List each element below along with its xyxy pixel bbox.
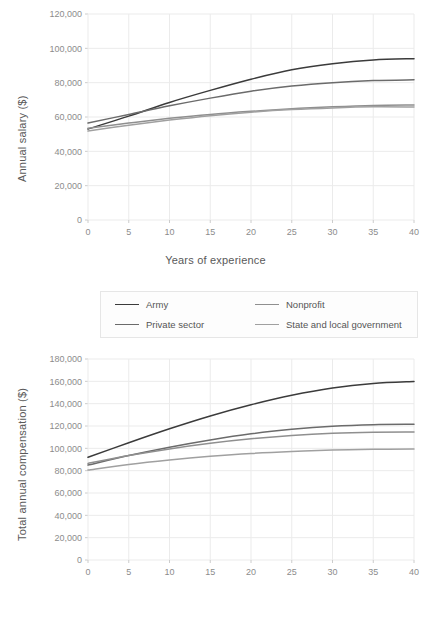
y-axis-title-total-annual-compensation: Total annual compensation ($)	[16, 388, 28, 541]
x-tick-label: 40	[409, 567, 419, 577]
y-tick-label: 80,000	[54, 78, 82, 88]
y-tick-label: 60,000	[54, 112, 82, 122]
y-tick-label: 160,000	[49, 377, 82, 387]
y-tick-label: 0	[77, 555, 82, 565]
x-tick-label: 15	[205, 567, 215, 577]
figure: 020,00040,00060,00080,000100,000120,0000…	[0, 0, 431, 621]
y-tick-label: 100,000	[49, 44, 82, 54]
legend-swatch-state-and-local-government	[255, 324, 279, 325]
x-axis-title-annual-salary: Years of experience	[0, 254, 431, 266]
chart-panel-annual-salary: 020,00040,00060,00080,000100,000120,0000…	[0, 0, 431, 285]
legend-swatch-army	[115, 304, 139, 305]
x-tick-label: 35	[368, 227, 378, 237]
y-tick-label: 20,000	[54, 181, 82, 191]
total-annual-compensation-plot: 020,00040,00060,00080,000100,000120,0001…	[0, 345, 431, 590]
chart-panel-total-annual-compensation: 020,00040,00060,00080,000100,000120,0001…	[0, 345, 431, 621]
y-tick-label: 120,000	[49, 421, 82, 431]
x-tick-label: 20	[246, 227, 256, 237]
x-tick-label: 20	[246, 567, 256, 577]
legend-item-army[interactable]: Army	[115, 299, 255, 310]
y-axis-title-annual-salary: Annual salary ($)	[16, 95, 28, 182]
annual-salary-plot: 020,00040,00060,00080,000100,000120,0000…	[0, 0, 431, 250]
legend-label-nonprofit: Nonprofit	[286, 299, 325, 310]
x-tick-label: 10	[164, 227, 174, 237]
chart-legend: Army Nonprofit Private sector State and …	[100, 291, 418, 338]
x-tick-label: 30	[327, 227, 337, 237]
legend-item-nonprofit[interactable]: Nonprofit	[255, 299, 431, 310]
x-tick-label: 35	[368, 567, 378, 577]
y-tick-label: 20,000	[54, 533, 82, 543]
y-tick-label: 40,000	[54, 511, 82, 521]
y-tick-label: 120,000	[49, 9, 82, 19]
x-tick-label: 30	[327, 567, 337, 577]
x-tick-label: 5	[126, 227, 131, 237]
y-tick-label: 140,000	[49, 399, 82, 409]
x-tick-label: 0	[85, 567, 90, 577]
y-tick-label: 80,000	[54, 466, 82, 476]
y-tick-label: 0	[77, 215, 82, 225]
x-tick-label: 10	[164, 567, 174, 577]
x-tick-label: 40	[409, 227, 419, 237]
x-tick-label: 5	[126, 567, 131, 577]
y-tick-label: 180,000	[49, 354, 82, 364]
legend-swatch-nonprofit	[255, 304, 279, 305]
legend-label-state-and-local-government: State and local government	[286, 319, 402, 330]
legend-swatch-private-sector	[115, 324, 139, 325]
x-tick-label: 0	[85, 227, 90, 237]
legend-label-army: Army	[146, 299, 168, 310]
legend-item-private-sector[interactable]: Private sector	[115, 319, 255, 330]
x-tick-label: 25	[287, 567, 297, 577]
legend-label-private-sector: Private sector	[146, 319, 204, 330]
y-tick-label: 40,000	[54, 147, 82, 157]
legend-item-state-and-local-government[interactable]: State and local government	[255, 319, 431, 330]
x-tick-label: 15	[205, 227, 215, 237]
x-tick-label: 25	[287, 227, 297, 237]
y-tick-label: 60,000	[54, 488, 82, 498]
y-tick-label: 100,000	[49, 444, 82, 454]
